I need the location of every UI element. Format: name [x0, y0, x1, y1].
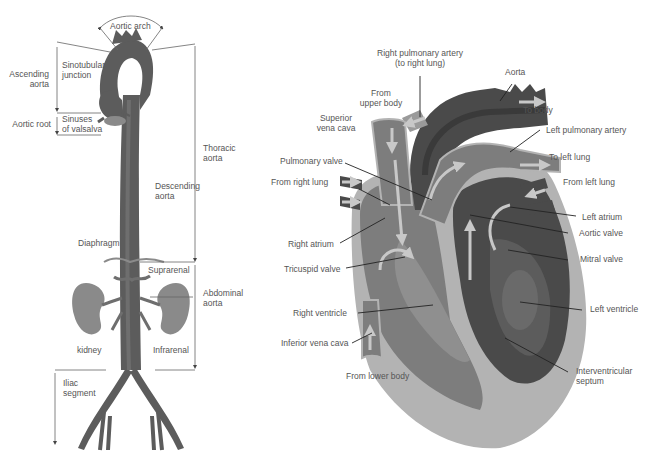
label-from-left-lung: From left lung: [563, 177, 615, 187]
right-iliac-artery: [130, 368, 184, 450]
label-ascending-aorta: Ascending: [9, 69, 49, 79]
label-aortic-valve: Aortic valve: [579, 228, 623, 238]
label-superior-vena-cava-2: vena cava: [317, 123, 356, 133]
label-aortic-arch: Aortic arch: [110, 21, 151, 31]
anatomy-diagram: Aortic arch Ascending aorta Sinotubular …: [0, 0, 645, 467]
inferior-vena-cava: [362, 300, 382, 358]
label-aorta: Aorta: [505, 67, 526, 77]
label-from-lower-body: From lower body: [346, 371, 410, 381]
label-kidney: kidney: [77, 345, 102, 355]
label-abdominal-aorta-2: aorta: [203, 298, 223, 308]
left-kidney: [72, 283, 104, 334]
label-sinuses-of-valsalva: Sinuses: [62, 114, 92, 124]
label-tricuspid-valve: Tricuspid valve: [284, 264, 341, 274]
label-ascending-aorta-2: aorta: [30, 79, 50, 89]
label-from-right-lung: From right lung: [271, 177, 328, 187]
label-infrarenal: Infrarenal: [153, 345, 189, 355]
left-iliac-artery: [78, 368, 132, 450]
label-sinotubular-junction: Sinotubular: [62, 60, 105, 70]
label-pulmonary-valve: Pulmonary valve: [280, 156, 343, 166]
label-from-upper-body-2: upper body: [360, 98, 403, 108]
label-descending-aorta: Descending: [155, 181, 200, 191]
aorta-diagram: Aortic arch Ascending aorta Sinotubular …: [9, 16, 243, 450]
label-sinuses-of-valsalva-2: of valsalva: [62, 124, 102, 134]
label-iliac-segment: Iliac: [63, 378, 79, 388]
label-to-left-lung: To left lung: [549, 152, 590, 162]
label-aortic-root: Aortic root: [12, 119, 51, 129]
label-inferior-vena-cava: Inferior vena cava: [281, 338, 349, 348]
label-sinotubular-junction-2: junction: [61, 70, 92, 80]
label-diaphragm: Diaphragm: [78, 238, 120, 248]
label-from-upper-body: From: [371, 88, 391, 98]
label-right-ventricle: Right ventricle: [293, 308, 347, 318]
label-right-atrium: Right atrium: [288, 239, 334, 249]
heart-diagram: Right pulmonary artery (to right lung) A…: [271, 48, 638, 448]
label-abdominal-aorta: Abdominal: [203, 288, 243, 298]
right-kidney: [157, 283, 189, 334]
label-left-ventricle: Left ventricle: [590, 304, 638, 314]
label-suprarenal: Suprarenal: [148, 265, 190, 275]
label-descending-aorta-2: aorta: [155, 191, 175, 201]
label-interventricular-septum-2: septum: [576, 376, 604, 386]
label-interventricular-septum: Interventricular: [576, 366, 632, 376]
aortic-root: [104, 116, 126, 126]
label-thoracic-aorta-2: aorta: [203, 153, 223, 163]
label-right-pulmonary-artery-2: (to right lung): [395, 58, 445, 68]
label-mitral-valve: Mitral valve: [580, 254, 623, 264]
label-iliac-segment-2: segment: [63, 388, 96, 398]
label-to-body: To body: [523, 105, 554, 115]
label-left-pulmonary-artery: Left pulmonary artery: [546, 125, 627, 135]
label-left-atrium: Left atrium: [582, 212, 622, 222]
label-thoracic-aorta: Thoracic: [203, 143, 236, 153]
label-right-pulmonary-artery: Right pulmonary artery: [377, 48, 464, 58]
label-superior-vena-cava: Superior: [320, 113, 352, 123]
descending-aorta: [120, 95, 141, 370]
